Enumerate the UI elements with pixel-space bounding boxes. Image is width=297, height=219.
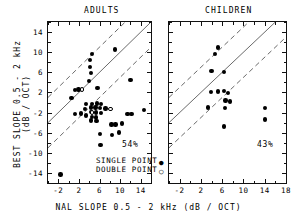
y-tick-major [147,113,151,114]
data-point-single [79,111,83,115]
open-circle-icon: ○ [159,167,164,176]
y-tick-major [169,113,173,114]
panel-title-children: CHILDREN [205,6,252,15]
data-point-single [206,105,210,109]
y-tick-minor [149,183,152,184]
y-tick-minor [149,82,152,83]
y-tick-minor [149,42,152,43]
data-point-single [94,119,98,123]
x-tick-major [243,179,244,183]
y-tick-minor [149,123,152,124]
y-tick-major [282,173,286,174]
x-tick-major [79,179,80,183]
y-tick-major [282,72,286,73]
y-tick-major [147,32,151,33]
x-tick-minor [212,181,213,184]
data-point-single [58,172,62,176]
y-tick-minor [169,62,172,63]
y-tick-label: 10 [22,48,43,57]
y-tick-label: -10 [22,149,43,158]
y-tick-major [282,92,286,93]
y-tick-label: 2 [22,88,43,97]
y-tick-major [48,133,52,134]
y-tick-major [169,173,173,174]
data-point-single [263,117,267,121]
y-tick-minor [169,143,172,144]
x-tick-label: 18 [276,186,296,195]
data-point-single [89,71,93,75]
x-tick-minor [69,181,70,184]
y-tick-major [282,153,286,154]
x-tick-major [100,22,101,26]
y-tick-major [169,153,173,154]
x-tick-minor [190,181,191,184]
y-tick-minor [48,123,51,124]
y-tick-major [169,72,173,73]
x-tick-minor [151,22,152,25]
y-tick-minor [284,42,287,43]
data-point-double [108,107,112,111]
y-tick-label: -6 [22,129,43,138]
data-point-single [216,89,220,93]
y-tick-minor [169,42,172,43]
y-tick-label: -14 [22,169,43,178]
y-tick-minor [169,183,172,184]
y-tick-major [282,133,286,134]
x-tick-minor [190,22,191,25]
data-point-single [113,47,117,51]
y-tick-minor [48,82,51,83]
y-tick-minor [284,82,287,83]
data-point-single [228,99,232,103]
y-tick-major [48,173,52,174]
percent-annotation: 43% [257,140,274,149]
data-point-single [129,112,133,116]
y-tick-minor [284,22,287,23]
y-tick-major [48,32,52,33]
y-tick-major [48,72,52,73]
x-tick-minor [151,181,152,184]
x-tick-label: 14 [131,186,151,195]
y-tick-minor [149,103,152,104]
figure-root: BEST SLOPE 0.5 - 2 kHz (dB / OCT) NAL SL… [0,0,297,219]
x-tick-minor [110,22,111,25]
y-tick-minor [48,103,51,104]
y-tick-major [147,72,151,73]
y-tick-major [48,52,52,53]
x-tick-minor [233,22,234,25]
x-tick-minor [254,181,255,184]
x-tick-major [201,22,202,26]
x-tick-major [120,179,121,183]
panel-title-adults: ADULTS [84,6,120,15]
x-tick-minor [130,22,131,25]
y-tick-major [169,32,173,33]
data-point-double [80,87,84,91]
y-tick-minor [169,103,172,104]
y-tick-minor [48,183,51,184]
x-tick-minor [233,181,234,184]
legend: SINGLE POINT ● DOUBLE POINT ○ [96,156,157,174]
x-tick-major [243,22,244,26]
y-tick-minor [48,62,51,63]
x-tick-minor [275,22,276,25]
y-tick-minor [284,163,287,164]
x-tick-major [265,22,266,26]
data-point-single [73,88,77,92]
reference-line-dashed-1 [169,22,249,97]
x-tick-minor [89,22,90,25]
legend-row-single: SINGLE POINT ● [96,156,157,165]
y-tick-major [147,153,151,154]
x-tick-minor [275,181,276,184]
data-point-single [93,105,97,109]
x-tick-minor [89,181,90,184]
x-tick-minor [110,181,111,184]
data-point-single [263,106,267,110]
x-tick-label: 14 [255,186,275,195]
x-tick-label: 6 [90,186,110,195]
y-tick-minor [48,22,51,23]
y-tick-minor [48,42,51,43]
data-point-single [84,113,88,117]
data-point-single [223,98,227,102]
x-tick-label: -2 [170,186,190,195]
y-tick-major [48,92,52,93]
data-point-single [98,143,102,147]
